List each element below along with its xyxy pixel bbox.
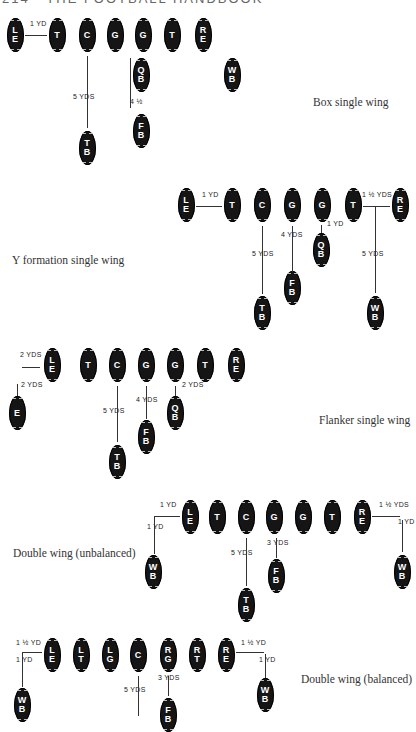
distance-label: 5 YDS — [362, 250, 384, 257]
player-wb: WB — [367, 296, 384, 330]
page-header: 214 THE FOOTBALL HANDBOOK — [2, 0, 263, 6]
distance-label: 5 YDS — [103, 407, 125, 414]
player-g: G — [167, 348, 184, 382]
distance-label: 1 YD — [147, 523, 164, 530]
formation-label: Flanker single wing — [319, 414, 410, 426]
player-wb: WB — [14, 688, 31, 722]
player-g: G — [107, 18, 124, 52]
distance-label: 2 YDS — [21, 381, 43, 388]
player-t: T — [324, 500, 341, 534]
player-fb: FB — [160, 698, 177, 732]
player-t: T — [224, 188, 241, 222]
player-re: RE — [195, 18, 212, 52]
player-g: G — [314, 188, 331, 222]
player-fb: FB — [268, 559, 285, 593]
player-re: RE — [354, 500, 371, 534]
distance-label: 1 YD — [30, 20, 47, 27]
player-g: G — [135, 18, 152, 52]
player-fb: FB — [138, 420, 155, 454]
player-e: E — [9, 396, 26, 430]
formation-label: Box single wing — [313, 96, 388, 108]
player-c: C — [238, 500, 255, 534]
distance-label: 1 ½ YD — [16, 639, 41, 646]
player-lg: LG — [102, 638, 119, 672]
player-g: G — [295, 500, 312, 534]
player-c: C — [254, 188, 271, 222]
distance-label: 4 ½ — [130, 98, 143, 105]
player-wb: WB — [145, 555, 162, 589]
distance-label: 1 ½ YD — [241, 639, 266, 646]
player-tb: TB — [79, 131, 96, 165]
player-qb: QB — [313, 233, 330, 267]
player-qb: QB — [133, 58, 150, 92]
distance-label: 1 ½ YDS — [362, 191, 392, 198]
player-le: LE — [182, 500, 199, 534]
distance-label: 2 YDS — [20, 351, 42, 358]
player-t: T — [345, 188, 362, 222]
book-title: THE FOOTBALL HANDBOOK — [46, 0, 263, 6]
distance-label: 5 YDS — [231, 549, 253, 556]
player-fb: FB — [284, 271, 301, 305]
distance-label: 1 YD — [202, 191, 219, 198]
player-le: LE — [178, 188, 195, 222]
player-wb: WB — [394, 555, 411, 589]
distance-label: 1 YD — [398, 518, 415, 525]
player-tb: TB — [109, 445, 126, 479]
player-g: G — [266, 500, 283, 534]
player-c: C — [130, 638, 147, 672]
player-rt: RT — [189, 638, 206, 672]
distance-label: 1 ½ YDS — [379, 501, 409, 508]
distance-label: 1 YD — [16, 656, 33, 663]
player-c: C — [79, 18, 96, 52]
player-rg: RG — [160, 638, 177, 672]
distance-label: 5 YDS — [124, 686, 146, 693]
player-tb: TB — [238, 588, 255, 622]
player-t: T — [209, 500, 226, 534]
player-g: G — [284, 188, 301, 222]
player-wb: WB — [224, 58, 241, 92]
distance-label: 1 YD — [259, 656, 276, 663]
player-le: LE — [44, 638, 61, 672]
page-number: 214 — [2, 0, 30, 6]
player-t: T — [164, 18, 181, 52]
player-re: RE — [228, 348, 245, 382]
player-wb: WB — [257, 678, 274, 712]
player-lt: LT — [73, 638, 90, 672]
player-g: G — [138, 348, 155, 382]
player-le: LE — [44, 348, 61, 382]
player-t: T — [80, 348, 97, 382]
player-c: C — [109, 348, 126, 382]
player-re: RE — [218, 638, 235, 672]
formation-label: Double wing (unbalanced) — [13, 547, 136, 559]
player-le: LE — [7, 18, 24, 52]
player-t: T — [49, 18, 66, 52]
distance-label: 1 YD — [327, 220, 344, 227]
player-qb: QB — [167, 396, 184, 430]
player-tb: TB — [254, 296, 271, 330]
player-fb: FB — [133, 114, 150, 148]
formation-label: Double wing (balanced) — [301, 673, 412, 685]
distance-label: 3 YDS — [267, 539, 289, 546]
distance-label: 1 YD — [160, 501, 177, 508]
distance-label: 5 YDS — [73, 93, 95, 100]
player-t: T — [197, 348, 214, 382]
player-re: RE — [392, 188, 409, 222]
distance-label: 2 YDS — [182, 381, 204, 388]
formation-label: Y formation single wing — [12, 254, 124, 266]
